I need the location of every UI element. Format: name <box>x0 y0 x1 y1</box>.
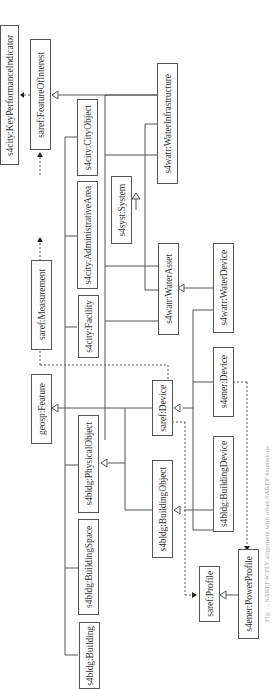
node-measurement: saref:Measurement <box>31 260 52 350</box>
node-system: s4syst:System <box>111 176 132 244</box>
node-kpi: s4city:KeyPerformanceIndicator <box>0 25 19 165</box>
node-administrative-area: s4city:AdministrativeArea <box>77 181 98 289</box>
node-power-profile: s4ener:PowerProfile <box>238 549 259 639</box>
node-physical-object: s4bldg:PhysicalObject <box>78 415 99 513</box>
ontology-diagram: s4city:KeyPerformanceIndicator saref:Fea… <box>0 0 274 689</box>
node-building: s4bldg:Building <box>79 622 100 689</box>
figure-caption: Fig. ... SAREF4CITY alignment with other… <box>262 380 272 689</box>
node-feature-of-interest: saref:FeatureOfInterest <box>30 39 51 150</box>
node-water-asset: s4watr:WaterAsset <box>158 243 179 335</box>
node-building-space: s4bldg:BuildingSpace <box>78 519 99 615</box>
node-water-infrastructure: s4watr:WaterInfrastructure <box>157 63 178 184</box>
node-water-device: s4watr:WaterDevice <box>213 243 234 333</box>
node-saref-profile: saref:Profile <box>199 566 220 622</box>
node-geosp-feature: geosp:Feature <box>31 374 52 444</box>
node-building-device: s4bldg:BuildingDevice <box>213 436 234 532</box>
node-ener-device: s4ener:Device <box>213 347 234 417</box>
node-facility: s4city:Facility <box>78 295 99 358</box>
node-saref-device: saref:Device <box>152 380 173 436</box>
node-city-object: s4city:CityObject <box>77 99 98 176</box>
node-building-object: s4bldg:BuildingObject <box>152 460 173 558</box>
